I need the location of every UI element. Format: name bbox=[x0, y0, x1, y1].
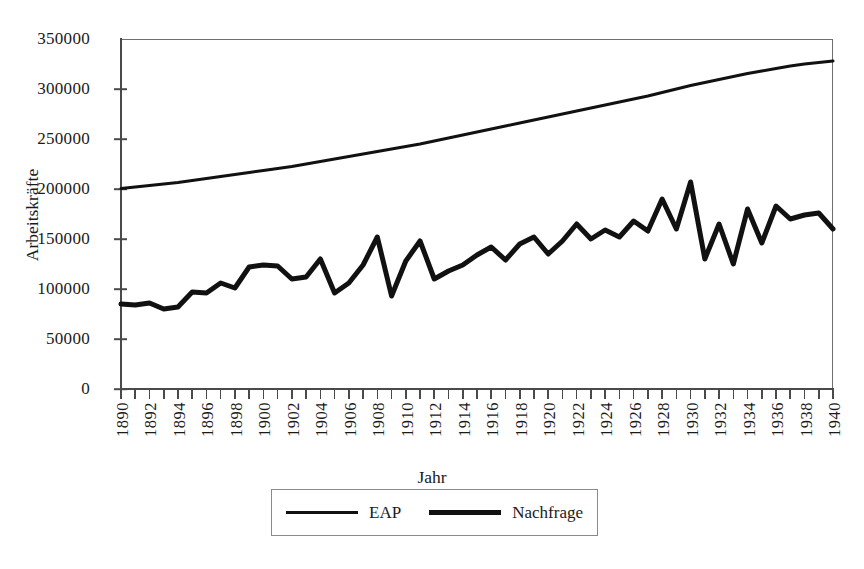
x-tick-mark bbox=[334, 388, 336, 399]
x-tick-mark bbox=[476, 388, 478, 399]
x-tick-label: 1914 bbox=[455, 402, 475, 437]
x-tick-label: 1894 bbox=[170, 402, 190, 437]
x-tick-mark bbox=[704, 388, 706, 399]
x-tick-mark bbox=[604, 388, 606, 399]
x-tick-label: 1936 bbox=[768, 402, 788, 437]
x-tick-mark bbox=[804, 388, 806, 399]
x-tick-mark bbox=[448, 388, 450, 399]
legend-swatch-eap bbox=[286, 511, 358, 515]
legend-swatch-nachfrage bbox=[429, 510, 501, 516]
x-tick-label: 1900 bbox=[255, 402, 275, 437]
y-tick-mark bbox=[114, 188, 127, 190]
y-tick-label: 200000 bbox=[37, 179, 90, 199]
x-tick-mark bbox=[533, 388, 535, 399]
x-tick-label: 1918 bbox=[512, 402, 532, 437]
legend-label-eap: EAP bbox=[369, 503, 401, 523]
legend-label-nachfrage: Nachfrage bbox=[512, 503, 583, 523]
y-tick-label: 300000 bbox=[37, 79, 90, 99]
y-tick-label: 50000 bbox=[46, 329, 90, 349]
x-tick-label: 1898 bbox=[227, 402, 247, 437]
y-tick-mark bbox=[114, 88, 127, 90]
x-tick-mark bbox=[305, 388, 307, 399]
x-tick-mark bbox=[263, 388, 265, 399]
x-tick-mark bbox=[320, 388, 322, 399]
x-tick-mark bbox=[647, 388, 649, 399]
x-tick-mark bbox=[761, 388, 763, 399]
y-tick-label: 250000 bbox=[37, 129, 90, 149]
x-tick-mark bbox=[291, 388, 293, 399]
x-tick-label: 1922 bbox=[569, 402, 589, 437]
x-tick-mark bbox=[220, 388, 222, 399]
x-tick-label: 1916 bbox=[483, 402, 503, 437]
x-tick-mark bbox=[462, 388, 464, 399]
x-tick-mark bbox=[206, 388, 208, 399]
x-tick-label: 1912 bbox=[426, 402, 446, 437]
x-tick-label: 1934 bbox=[740, 402, 760, 437]
y-tick-mark bbox=[114, 138, 127, 140]
x-tick-mark bbox=[490, 388, 492, 399]
y-tick-label: 150000 bbox=[37, 229, 90, 249]
x-tick-mark bbox=[149, 388, 151, 399]
x-tick-mark bbox=[576, 388, 578, 399]
x-tick-mark bbox=[377, 388, 379, 399]
x-tick-mark bbox=[391, 388, 393, 399]
y-tick-mark bbox=[114, 238, 127, 240]
x-tick-mark bbox=[362, 388, 364, 399]
x-tick-label: 1892 bbox=[141, 402, 161, 437]
x-tick-label: 1910 bbox=[398, 402, 418, 437]
x-tick-label: 1902 bbox=[284, 402, 304, 437]
x-tick-mark bbox=[661, 388, 663, 399]
x-tick-mark bbox=[718, 388, 720, 399]
x-tick-mark bbox=[676, 388, 678, 399]
x-tick-mark bbox=[789, 388, 791, 399]
plot-area bbox=[121, 39, 833, 389]
chart-legend: EAP Nachfrage bbox=[271, 489, 598, 536]
x-tick-mark bbox=[405, 388, 407, 399]
y-axis-title: Arbeitskräfte bbox=[22, 169, 43, 261]
x-tick-label: 1926 bbox=[626, 402, 646, 437]
x-tick-mark bbox=[562, 388, 564, 399]
x-tick-mark bbox=[277, 388, 279, 399]
y-tick-label: 100000 bbox=[37, 279, 90, 299]
x-tick-mark bbox=[633, 388, 635, 399]
x-tick-mark bbox=[248, 388, 250, 399]
x-tick-label: 1920 bbox=[540, 402, 560, 437]
x-tick-mark bbox=[733, 388, 735, 399]
x-axis-tick-labels: 1890189218941896189819001902190419061908… bbox=[0, 402, 864, 472]
x-tick-label: 1932 bbox=[711, 402, 731, 437]
x-tick-mark bbox=[590, 388, 592, 399]
x-tick-label: 1890 bbox=[113, 402, 133, 437]
x-tick-mark bbox=[547, 388, 549, 399]
x-tick-mark bbox=[747, 388, 749, 399]
x-tick-label: 1896 bbox=[198, 402, 218, 437]
x-tick-label: 1930 bbox=[683, 402, 703, 437]
x-tick-label: 1938 bbox=[797, 402, 817, 437]
plot-border-top bbox=[121, 39, 833, 40]
x-tick-mark bbox=[832, 388, 834, 399]
x-tick-mark bbox=[419, 388, 421, 399]
x-tick-mark bbox=[191, 388, 193, 399]
legend-item-eap: EAP bbox=[286, 503, 401, 523]
y-tick-mark bbox=[114, 288, 127, 290]
x-tick-mark bbox=[775, 388, 777, 399]
x-axis-ticks bbox=[0, 388, 864, 400]
y-axis-line bbox=[120, 38, 122, 390]
x-tick-mark bbox=[163, 388, 165, 399]
x-tick-mark bbox=[120, 388, 122, 399]
x-axis-title: Jahr bbox=[0, 467, 864, 488]
x-tick-label: 1908 bbox=[369, 402, 389, 437]
y-tick-mark bbox=[114, 338, 127, 340]
plot-border-right bbox=[832, 39, 833, 389]
x-tick-mark bbox=[234, 388, 236, 399]
x-tick-label: 1906 bbox=[341, 402, 361, 437]
x-tick-label: 1928 bbox=[654, 402, 674, 437]
x-tick-mark bbox=[505, 388, 507, 399]
x-tick-label: 1940 bbox=[825, 402, 845, 437]
x-tick-mark bbox=[348, 388, 350, 399]
x-tick-label: 1924 bbox=[597, 402, 617, 437]
x-tick-mark bbox=[433, 388, 435, 399]
y-tick-label: 350000 bbox=[37, 29, 90, 49]
x-tick-mark bbox=[690, 388, 692, 399]
chart-figure: 0500001000001500002000002500003000003500… bbox=[0, 0, 864, 569]
x-tick-label: 1904 bbox=[312, 402, 332, 437]
